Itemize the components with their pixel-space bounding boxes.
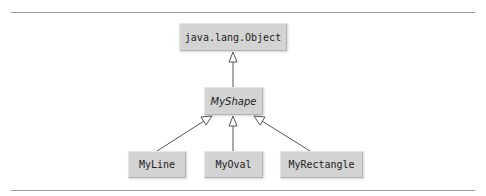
class-myshape: MyShape (204, 87, 263, 115)
edge-myline-to-myshape (157, 116, 212, 151)
edge-myshape-to-object (229, 52, 237, 87)
edge-myoval-to-myshape (229, 116, 237, 151)
edge-myrectangle-to-myshape (254, 116, 310, 151)
hollow-arrowhead-icon (201, 116, 212, 125)
hollow-arrowhead-icon (229, 116, 237, 126)
class-name: MyRectangle (288, 159, 354, 170)
hollow-arrowhead-icon (229, 52, 237, 62)
hollow-arrowhead-icon (254, 116, 265, 125)
class-myrectangle: MyRectangle (280, 151, 363, 178)
class-myline: MyLine (128, 151, 186, 178)
class-name: MyLine (139, 159, 175, 170)
class-name: java.lang.Object (185, 32, 281, 43)
class-myoval: MyOval (204, 151, 263, 178)
class-java-lang-object: java.lang.Object (179, 23, 287, 51)
class-name: MyShape (211, 96, 257, 107)
class-name: MyOval (215, 159, 251, 170)
